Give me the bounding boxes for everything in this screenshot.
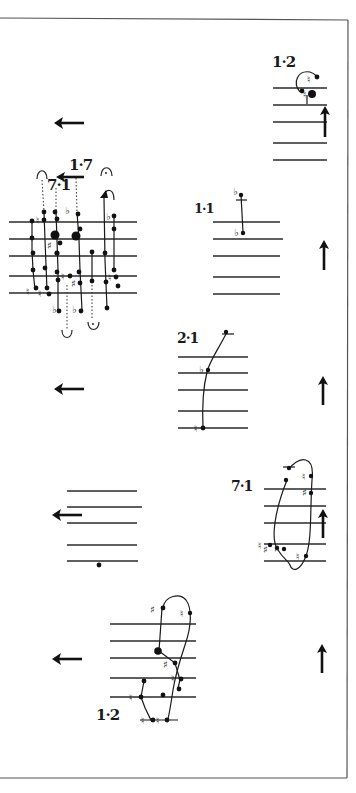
score-canvas: ♮ ♮ — [0, 0, 356, 793]
svg-text:♭: ♭ — [233, 186, 238, 197]
label-middle-right: 1·1 — [194, 202, 214, 215]
svg-text:♮: ♮ — [302, 471, 306, 482]
svg-text:♮: ♮ — [194, 423, 198, 434]
svg-text:♮: ♮ — [108, 272, 112, 283]
svg-text:♮: ♮ — [156, 715, 160, 726]
svg-text:♮: ♮ — [258, 540, 262, 551]
bottom-staff: ♯ ♮ ♯ ♮ ♮ ♮ ♮ — [52, 596, 196, 726]
svg-text:♯: ♯ — [150, 604, 155, 615]
label-cluster-b: 7·1 — [47, 178, 70, 193]
svg-text:♯: ♯ — [47, 240, 52, 251]
svg-text:♯: ♯ — [274, 543, 279, 554]
left-arrow-icon — [54, 383, 84, 395]
center-staff: ♭ ♮ — [178, 330, 328, 434]
svg-text:♮: ♮ — [129, 692, 133, 703]
label-cluster-a: 1·7 — [69, 158, 92, 173]
svg-text:♮: ♮ — [307, 74, 311, 85]
up-arrow-icon — [317, 644, 327, 673]
svg-text:♭: ♭ — [199, 364, 204, 375]
left-arrow-icon — [54, 117, 84, 129]
svg-text:♭: ♭ — [234, 227, 239, 238]
svg-text:♭: ♭ — [52, 304, 57, 315]
svg-text:♮: ♮ — [38, 288, 42, 299]
lower-right-staff: ♮ ♯ ♮ ♯ ♯ ♮ — [258, 460, 328, 570]
svg-text:♮: ♮ — [303, 89, 307, 100]
top-right-staff: ♮ ♮ — [273, 72, 330, 160]
lower-left-staff — [52, 491, 142, 567]
svg-text:♯: ♯ — [263, 544, 268, 555]
svg-text:♭: ♭ — [65, 205, 70, 216]
svg-text:♯: ♯ — [71, 278, 76, 289]
svg-text:♯: ♯ — [302, 487, 307, 498]
svg-text:♮: ♮ — [36, 215, 40, 226]
svg-text:♮: ♮ — [26, 286, 30, 297]
svg-text:♮: ♮ — [171, 673, 175, 684]
svg-text:♭: ♭ — [106, 211, 111, 222]
cluster-staff: ♮ ♭ ♯ ♭ ♮ ♮ ♮ ♯ ♮ ♭ ♭ — [9, 168, 137, 338]
svg-text:♮: ♮ — [180, 608, 184, 619]
svg-text:♯: ♯ — [163, 659, 168, 670]
svg-text:♮: ♮ — [296, 551, 300, 562]
label-bottom-left: 1·2 — [96, 708, 119, 723]
svg-text:♭: ♭ — [72, 304, 77, 315]
svg-text:♮: ♮ — [141, 715, 145, 726]
svg-text:♮: ♮ — [61, 271, 65, 282]
label-lower-right: 7·1 — [231, 479, 252, 493]
label-top-right: 1·2 — [272, 55, 295, 70]
middle-right-staff: ♭ ♭ — [213, 186, 329, 294]
label-center: 2·1 — [177, 331, 198, 345]
